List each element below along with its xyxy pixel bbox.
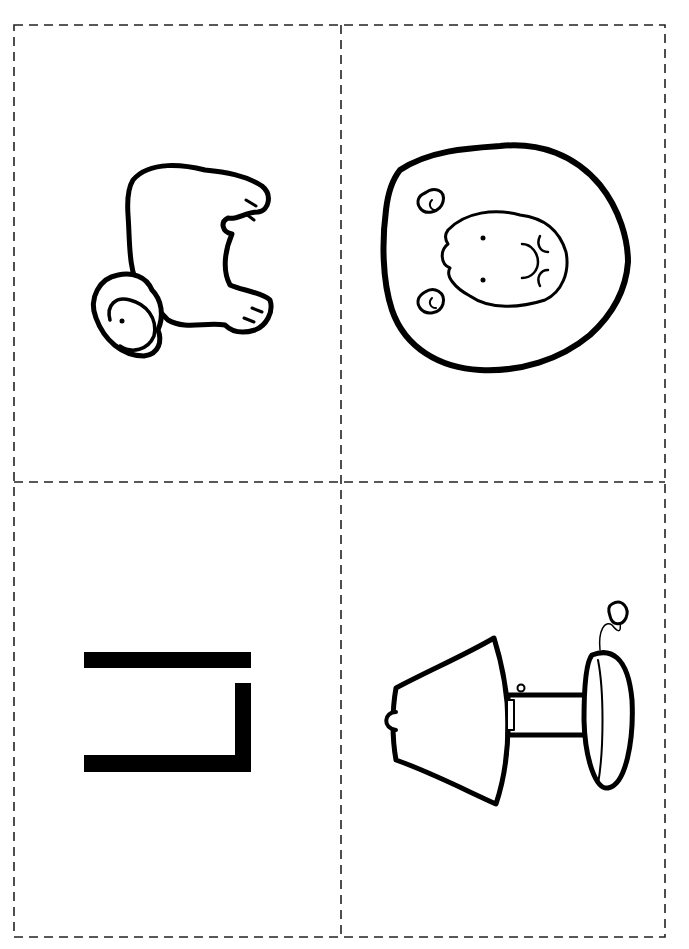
lion-icon — [384, 145, 628, 370]
lamp-icon — [386, 602, 632, 804]
letter-l-icon — [84, 652, 251, 772]
lamb-icon — [93, 166, 271, 356]
flashcard-sheet — [0, 0, 689, 949]
